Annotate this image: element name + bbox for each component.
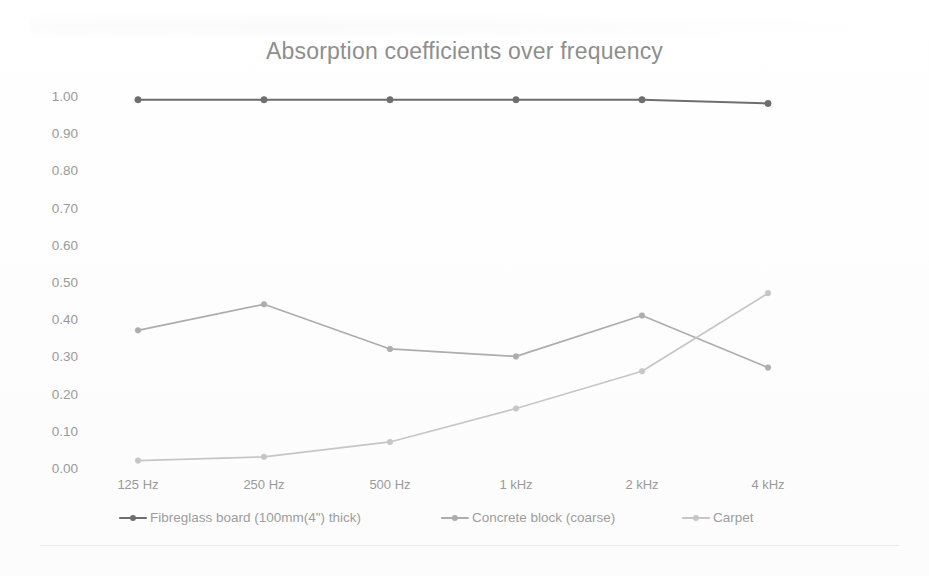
page-rule-line [40, 545, 899, 546]
data-series [135, 97, 771, 107]
legend-label: Fibreglass board (100mm(4") thick) [150, 510, 361, 525]
series-marker [261, 454, 267, 460]
y-axis-tick-label: 0.80 [52, 163, 78, 178]
y-axis-tick-label: 0.60 [52, 238, 78, 253]
legend-label: Concrete block (coarse) [472, 510, 615, 525]
data-series [135, 290, 771, 463]
legend-swatch-marker [452, 515, 458, 521]
legend-swatch-marker [130, 515, 136, 521]
series-marker [639, 97, 645, 103]
series-marker [765, 290, 771, 296]
x-axis-tick-label: 125 Hz [117, 477, 158, 492]
y-axis-tick-label: 0.50 [52, 275, 78, 290]
y-axis-tick-label: 0.70 [52, 201, 78, 216]
data-series [135, 302, 771, 371]
series-marker [387, 97, 393, 103]
y-axis-tick-label: 0.30 [52, 349, 78, 364]
y-axis-tick-label: 0.40 [52, 312, 78, 327]
series-marker [261, 302, 267, 308]
series-marker [387, 346, 393, 352]
legend-swatch-marker [693, 515, 699, 521]
series-marker [261, 97, 267, 103]
legend-item[interactable]: Fibreglass board (100mm(4") thick) [120, 510, 361, 525]
series-line [138, 304, 768, 367]
y-axis-tick-label: 0.00 [52, 461, 78, 476]
y-axis-tick-label: 0.20 [52, 387, 78, 402]
x-axis-tick-label: 2 kHz [625, 477, 658, 492]
x-axis-tick-labels: 125 Hz250 Hz500 Hz1 kHz2 kHz4 kHz [117, 477, 784, 492]
legend-label: Carpet [713, 510, 754, 525]
series-line [138, 293, 768, 460]
x-axis-tick-label: 250 Hz [243, 477, 284, 492]
series-marker [387, 439, 393, 445]
series-marker [513, 97, 519, 103]
y-axis-tick-label: 0.10 [52, 424, 78, 439]
data-series-layer [135, 97, 771, 464]
series-marker [639, 368, 645, 374]
x-axis-tick-label: 4 kHz [751, 477, 784, 492]
y-axis-tick-label: 1.00 [52, 89, 78, 104]
legend-item[interactable]: Carpet [683, 510, 754, 525]
series-marker [513, 406, 519, 412]
chart-container: Absorption coefficients over frequency 1… [0, 0, 929, 576]
series-marker [513, 354, 519, 360]
series-marker [135, 97, 141, 103]
chart-legend: Fibreglass board (100mm(4") thick)Concre… [120, 510, 754, 525]
line-chart-plot: 1.000.900.800.700.600.500.400.300.200.10… [0, 0, 929, 576]
series-marker [639, 313, 645, 319]
series-marker [765, 100, 771, 106]
x-axis-tick-label: 500 Hz [369, 477, 410, 492]
legend-item[interactable]: Concrete block (coarse) [442, 510, 615, 525]
series-marker [135, 458, 141, 464]
x-axis-tick-label: 1 kHz [499, 477, 532, 492]
series-marker [765, 365, 771, 371]
series-line [138, 100, 768, 104]
y-axis-tick-labels: 1.000.900.800.700.600.500.400.300.200.10… [52, 89, 78, 476]
y-axis-tick-label: 0.90 [52, 126, 78, 141]
series-marker [135, 328, 141, 334]
